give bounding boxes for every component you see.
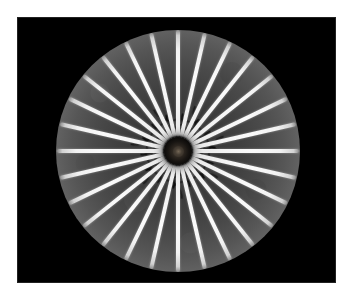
- figure-root: [0, 0, 356, 298]
- hub-core-highlight: [173, 146, 184, 157]
- spoke-bar: [57, 149, 164, 153]
- spoke-bar: [192, 149, 299, 153]
- phantom-disk-container: [56, 30, 300, 272]
- spoke-bar: [176, 165, 180, 272]
- phantom-disk: [56, 30, 300, 272]
- central-hub: [164, 137, 192, 165]
- radiograph-plate: [17, 17, 336, 283]
- spoke-bar: [176, 30, 180, 137]
